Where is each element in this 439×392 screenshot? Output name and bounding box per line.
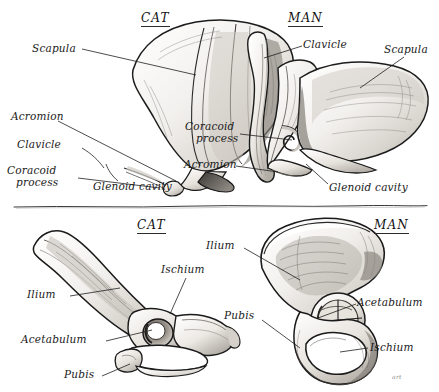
label-man-pubis: Pubis	[224, 310, 254, 321]
label-cat-clavicle: Clavicle	[17, 139, 61, 150]
heading-underline	[137, 233, 166, 234]
anatomy-plate: CAT MAN CAT MAN Scapula Acromion Clavicl…	[0, 0, 439, 392]
artist-signature: art	[392, 373, 402, 380]
heading-man-pelvic: MAN	[374, 218, 409, 235]
label-man-glenoid-cavity: Glenoid cavity	[329, 182, 408, 193]
label-cat-ischium: Ischium	[161, 264, 205, 275]
heading-man-pelvic-text: MAN	[374, 218, 409, 232]
label-cat-scapula: Scapula	[32, 43, 76, 54]
heading-cat-pelvic: CAT	[137, 218, 166, 235]
heading-cat-pectoral: CAT	[141, 11, 170, 28]
label-man-ilium: Ilium	[206, 240, 235, 251]
label-cat-acetabulum: Acetabulum	[21, 334, 87, 345]
label-line-2: process	[185, 133, 238, 145]
heading-underline	[288, 26, 323, 27]
heading-man-pectoral-text: MAN	[288, 11, 323, 25]
heading-cat-pelvic-text: CAT	[137, 218, 166, 232]
heading-cat-pectoral-text: CAT	[141, 11, 170, 25]
panel-divider	[14, 206, 427, 209]
label-cat-pubis: Pubis	[64, 369, 94, 380]
label-cat-glenoid-cavity: Glenoid cavity	[93, 181, 172, 192]
label-man-acromion: Acromion	[184, 159, 237, 170]
label-cat-coracoid-process: Coracoid process	[7, 165, 81, 188]
label-man-acetabulum: Acetabulum	[357, 297, 423, 308]
heading-underline	[141, 26, 170, 27]
cat-pelvis-drawing	[33, 231, 240, 377]
label-cat-acromion: Acromion	[11, 111, 64, 122]
label-man-clavicle: Clavicle	[303, 39, 347, 50]
heading-underline	[374, 233, 409, 234]
label-man-ischium: Ischium	[370, 342, 414, 353]
label-line-1: Coracoid	[7, 164, 57, 176]
label-line-1: Coracoid	[185, 120, 235, 132]
label-line-2: process	[7, 177, 58, 189]
label-cat-ilium: Ilium	[27, 289, 56, 300]
heading-man-pectoral: MAN	[288, 11, 323, 28]
label-man-coracoid-process: Coracoid process	[185, 121, 255, 144]
label-man-scapula: Scapula	[384, 44, 428, 55]
